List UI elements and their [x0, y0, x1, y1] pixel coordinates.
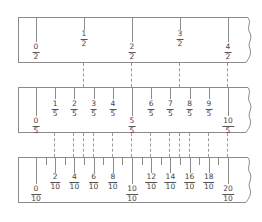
denominator: 2 [226, 53, 231, 61]
alignment-dashed-line [131, 133, 132, 157]
tick-mark [103, 158, 104, 165]
numerator: 20 [222, 185, 234, 193]
tick-mark [199, 158, 200, 165]
tick-mark [36, 158, 37, 184]
tick-mark [74, 158, 75, 173]
numerator: 14 [165, 173, 177, 181]
denominator: 10 [166, 183, 176, 191]
numerator: 4 [225, 43, 232, 51]
alignment-dashed-line [131, 63, 132, 87]
numerator: 9 [205, 100, 212, 108]
numerator: 3 [177, 30, 184, 38]
denominator: 5 [149, 110, 154, 118]
alignment-dashed-line [93, 133, 94, 157]
alignment-dashed-line [189, 133, 190, 157]
tick-mark [180, 158, 181, 165]
alignment-dashed-line [208, 133, 209, 157]
denominator: 2 [82, 40, 87, 48]
fraction-label: 42 [225, 43, 232, 61]
tick-mark [36, 88, 37, 116]
numerator: 6 [90, 173, 97, 181]
fraction-label: 22 [129, 43, 136, 61]
tick-mark [161, 158, 162, 165]
numerator: 1 [81, 30, 88, 38]
denominator: 10 [204, 183, 214, 191]
fraction-label: 1610 [184, 173, 196, 191]
tick-mark [84, 158, 85, 165]
tick-mark [209, 88, 210, 99]
denominator: 10 [31, 195, 41, 203]
tick-mark [228, 18, 229, 42]
fraction-label: 55 [129, 117, 136, 135]
denominator: 2 [178, 40, 183, 48]
number-line-tenths: 010210410610810101012101410161018102010 [18, 157, 246, 203]
denominator: 5 [34, 127, 39, 135]
tick-mark [228, 158, 229, 184]
fraction-label: 12 [81, 30, 88, 48]
fraction-label: 95 [205, 100, 212, 118]
fraction-label: 32 [177, 30, 184, 48]
alignment-dashed-line [150, 133, 151, 157]
torn-edge-icon [244, 17, 254, 63]
denominator: 5 [187, 110, 192, 118]
alignment-dashed-line [112, 133, 113, 157]
fraction-label: 85 [186, 100, 193, 118]
fraction-label: 45 [109, 100, 116, 118]
tick-mark [132, 88, 133, 116]
numerator: 1 [52, 100, 59, 108]
denominator: 5 [110, 110, 115, 118]
tick-mark [55, 158, 56, 173]
tick-mark [65, 158, 66, 165]
alignment-dashed-line [54, 133, 55, 157]
fraction-label: 1410 [165, 173, 177, 191]
tick-mark [94, 158, 95, 173]
denominator: 5 [91, 110, 96, 118]
numerator: 5 [129, 117, 136, 125]
alignment-dashed-line [179, 63, 180, 87]
tick-mark [228, 88, 229, 116]
tick-mark [218, 158, 219, 165]
torn-edge-icon [244, 87, 254, 133]
tick-mark [46, 158, 47, 165]
alignment-dashed-line [227, 63, 228, 87]
numerator: 8 [109, 173, 116, 181]
fraction-label: 35 [90, 100, 97, 118]
numerator: 2 [52, 173, 59, 181]
denominator: 10 [108, 183, 118, 191]
fraction-label: 010 [31, 185, 41, 203]
denominator: 10 [223, 195, 233, 203]
denominator: 10 [185, 183, 195, 191]
tick-mark [170, 158, 171, 173]
fraction-label: 75 [167, 100, 174, 118]
denominator: 2 [34, 53, 39, 61]
alignment-dashed-line [169, 133, 170, 157]
fraction-label: 2010 [222, 185, 234, 203]
denominator: 5 [206, 110, 211, 118]
denominator: 10 [146, 183, 156, 191]
number-line-fifths: 05152535455565758595105 [18, 87, 246, 133]
tick-mark [74, 88, 75, 99]
fraction-label: 610 [89, 173, 99, 191]
alignment-dashed-line [227, 133, 228, 157]
tick-mark [36, 18, 37, 42]
numerator: 6 [148, 100, 155, 108]
fraction-label: 65 [148, 100, 155, 118]
tick-mark [113, 158, 114, 173]
number-line-halves: 0212223242 [18, 17, 246, 63]
denominator: 10 [89, 183, 99, 191]
fraction-label: 05 [33, 117, 40, 135]
numerator: 3 [90, 100, 97, 108]
fraction-label: 1810 [203, 173, 215, 191]
fraction-label: 410 [70, 173, 80, 191]
denominator: 5 [53, 110, 58, 118]
numerator: 8 [186, 100, 193, 108]
denominator: 10 [50, 183, 60, 191]
fraction-label: 1210 [145, 173, 157, 191]
alignment-dashed-line [83, 133, 84, 157]
fraction-label: 210 [50, 173, 60, 191]
torn-edge-icon [244, 157, 254, 203]
tick-mark [209, 158, 210, 173]
tick-mark [113, 88, 114, 99]
tick-mark [55, 88, 56, 99]
denominator: 5 [72, 110, 77, 118]
